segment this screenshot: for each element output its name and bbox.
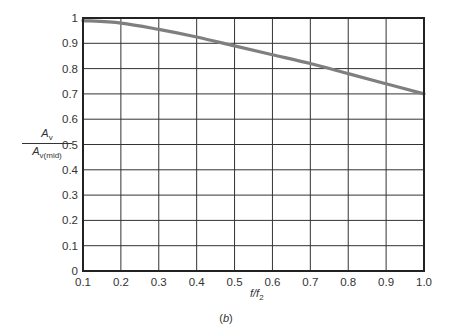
y-tick-label: 0.4 <box>62 164 79 176</box>
y-tick-label: 0.2 <box>62 214 78 226</box>
y-label-denominator: Av(mid) <box>22 144 72 160</box>
x-axis-label: f/f2 <box>0 287 452 302</box>
y-axis-label: Av Av(mid) <box>22 127 72 160</box>
gain-curve <box>83 21 424 94</box>
chart: 00.10.20.30.40.50.60.70.80.91 0.10.20.30… <box>0 0 452 331</box>
y-tick-label: 0.7 <box>62 88 78 100</box>
y-tick-label: 0.6 <box>62 113 78 125</box>
y-tick-label: 0.3 <box>62 189 78 201</box>
y-tick-label: 0.1 <box>62 240 78 252</box>
y-tick-label: 1 <box>72 12 78 24</box>
figure-caption: (b) <box>0 312 452 324</box>
data-series <box>83 21 424 94</box>
y-tick-label: 0.8 <box>62 63 78 75</box>
y-label-numerator: Av <box>22 127 72 144</box>
grid-lines <box>83 18 424 271</box>
y-tick-label: 0.9 <box>62 37 78 49</box>
